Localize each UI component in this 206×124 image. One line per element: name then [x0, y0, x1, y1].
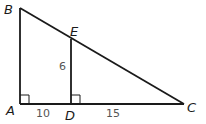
measure-ad: 10 [36, 107, 50, 120]
triangle-diagram: B E A D C 6 10 15 [0, 0, 206, 124]
measure-de: 6 [59, 60, 66, 73]
right-angle-marker-d [71, 95, 80, 104]
segment-bc [20, 8, 184, 104]
label-b: B [4, 2, 13, 17]
right-angle-marker-a [20, 95, 29, 104]
label-d: D [65, 108, 75, 123]
label-c: C [187, 100, 197, 115]
label-e: E [70, 24, 79, 39]
label-a: A [5, 103, 15, 118]
measure-dc: 15 [106, 107, 120, 120]
